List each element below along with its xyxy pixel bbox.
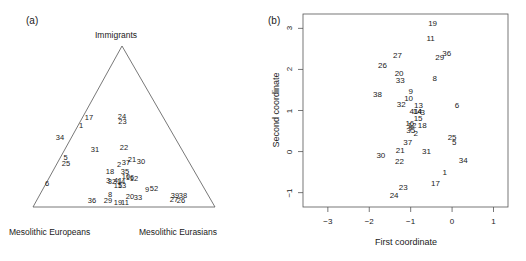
scatter-ytick-label: 2 — [286, 67, 294, 71]
scatter-point-27: 27 — [393, 52, 402, 60]
ternary-point-1: 1 — [79, 122, 83, 130]
scatter-point-18: 18 — [418, 122, 427, 130]
scatter-point-22: 22 — [395, 158, 404, 166]
scatter-point-1: 1 — [442, 169, 446, 177]
ternary-point-25: 25 — [62, 160, 70, 168]
scatter-point-29: 29 — [435, 54, 444, 62]
scatter-point-38: 38 — [373, 91, 382, 99]
scatter-xtick-label: 1 — [491, 218, 495, 226]
panel-a-ternary: (a) Immigrants Mesolithic Europeans Meso… — [0, 0, 263, 261]
scatter-point-17: 17 — [431, 180, 440, 188]
ternary-point-9: 9 — [145, 186, 149, 194]
scatter-xtick-label: −2 — [365, 218, 374, 226]
scatter-ytick-label: 0 — [286, 149, 294, 153]
ternary-vertex-label-mesolithic-eurasians: Mesolithic Eurasians — [139, 228, 217, 237]
scatter-point-34: 34 — [459, 157, 468, 165]
scatter-point-23: 23 — [399, 184, 408, 192]
panel-b-scatter: (b) −3−2−101−10123 191136292726208339381… — [263, 0, 526, 261]
scatter-point-24: 24 — [390, 192, 399, 200]
scatter-xtick-label: −1 — [406, 218, 415, 226]
scatter-point-2: 2 — [413, 130, 417, 138]
scatter-point-21: 21 — [396, 147, 405, 155]
ternary-point-37: 37 — [122, 159, 130, 167]
ternary-point-18: 18 — [106, 168, 114, 176]
scatter-axes-frame — [263, 0, 526, 261]
scatter-y-axis-title: Second coordinate — [272, 72, 281, 147]
ternary-point-12: 12 — [130, 175, 138, 183]
ternary-point-26: 26 — [177, 197, 185, 205]
scatter-point-30: 30 — [376, 152, 385, 160]
ternary-point-23: 23 — [118, 118, 126, 126]
scatter-ytick-label: 3 — [286, 26, 294, 30]
scatter-point-33: 33 — [396, 77, 405, 85]
ternary-point-52: 52 — [150, 185, 158, 193]
ternary-vertex-label-immigrants: Immigrants — [95, 31, 137, 40]
scatter-xtick-label: −3 — [323, 218, 332, 226]
ternary-point-34: 34 — [56, 134, 64, 142]
scatter-ytick-label: 1 — [286, 108, 294, 112]
ternary-point-36: 36 — [88, 197, 96, 205]
figure-root: (a) Immigrants Mesolithic Europeans Meso… — [0, 0, 526, 261]
ternary-point-17: 17 — [85, 114, 93, 122]
ternary-point-29: 29 — [104, 197, 112, 205]
ternary-point-22: 22 — [120, 144, 128, 152]
ternary-point-31: 31 — [91, 146, 99, 154]
scatter-ytick-label: −1 — [286, 188, 294, 197]
scatter-x-axis-title: First coordinate — [375, 238, 437, 247]
ternary-vertex-label-mesolithic-europeans: Mesolithic Europeans — [9, 228, 90, 237]
scatter-point-26: 26 — [378, 62, 387, 70]
scatter-point-6: 6 — [455, 102, 459, 110]
ternary-point-33: 33 — [134, 194, 142, 202]
ternary-point-15: 15 — [114, 182, 122, 190]
scatter-point-31: 31 — [422, 148, 431, 156]
ternary-point-30: 30 — [137, 158, 145, 166]
scatter-xtick-label: 0 — [450, 218, 454, 226]
scatter-point-11: 11 — [426, 35, 434, 43]
ternary-point-6: 6 — [45, 180, 49, 188]
scatter-point-32: 32 — [397, 101, 406, 109]
scatter-point-8: 8 — [432, 75, 436, 83]
scatter-point-5: 5 — [452, 139, 456, 147]
scatter-point-19: 19 — [428, 20, 437, 28]
